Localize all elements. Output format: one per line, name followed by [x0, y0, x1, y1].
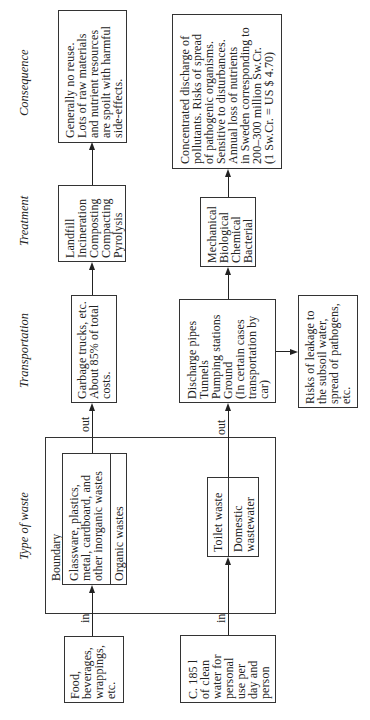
divider: [228, 478, 229, 556]
out-label: out: [78, 417, 93, 432]
solid-type-inorganic-text: Glassware, plastics, metal, cardboard, a…: [68, 471, 104, 581]
water-input-box: C. 185 l of clean water for personal use…: [180, 635, 276, 703]
out-label: out: [214, 420, 229, 435]
water-type-toilet-text: Toilet waste: [212, 493, 224, 552]
arrow-up-icon: [89, 403, 95, 411]
connector: [276, 351, 291, 352]
arrow-up-icon: [89, 262, 95, 270]
solid-input-text: Food, beverages, wrappings, etc.: [69, 645, 117, 699]
column-label-consequence: Consequence: [17, 49, 32, 116]
water-risk-box: Risks of leakage to the subsoil water, s…: [298, 295, 358, 408]
arrow-up-icon: [89, 585, 95, 593]
connector: [92, 270, 93, 295]
arrow-up-icon: [225, 267, 231, 275]
in-label: in: [78, 614, 93, 623]
water-transportation-box: Discharge pipes Tunnels Pumping stations…: [179, 299, 276, 403]
water-type-box: Toilet waste Domestic wastewater: [207, 477, 259, 557]
connector: [228, 565, 229, 635]
arrow-up-icon: [225, 557, 231, 565]
water-type-domestic-text: Domestic wastewater: [232, 497, 256, 552]
water-input-text: C. 185 l of clean water for personal use…: [187, 654, 271, 699]
arrow-up-icon: [225, 403, 231, 411]
water-consequence-text: Concentrated discharge of pollutants. Ri…: [179, 27, 275, 164]
arrow-up-icon: [225, 169, 231, 177]
solid-consequence-box: Generally no reuse. Lots of raw material…: [58, 10, 127, 143]
divider: [110, 454, 111, 584]
arrow-up-icon: [89, 142, 95, 150]
solid-transportation-box: Garbage trucks, etc. About 85% of total …: [71, 295, 117, 403]
in-label: in: [214, 614, 229, 623]
water-transportation-text: Discharge pipes Tunnels Pumping stations…: [186, 314, 270, 399]
column-label-type-of-waste: Type of waste: [17, 492, 32, 560]
solid-type-organic-text: Organic wastes: [113, 506, 125, 581]
connector: [92, 150, 93, 185]
water-risk-text: Risks of leakage to the subsoil water, s…: [304, 303, 352, 404]
water-treatment-text: Mechanical Biological Chemical Bacterial: [206, 206, 254, 263]
water-treatment-box: Mechanical Biological Chemical Bacterial: [200, 197, 256, 267]
solid-consequence-text: Generally no reuse. Lots of raw material…: [64, 26, 124, 138]
solid-treatment-text: Landfill Incineration Composting Compact…: [64, 198, 124, 258]
arrow-right-icon: [290, 349, 298, 355]
solid-treatment-box: Landfill Incineration Composting Compact…: [58, 185, 126, 262]
connector: [228, 275, 229, 299]
solid-input-box: Food, beverages, wrappings, etc.: [64, 636, 124, 703]
column-label-treatment: Treatment: [17, 196, 32, 246]
connector: [228, 177, 229, 197]
column-label-transportation: Transportation: [17, 313, 32, 388]
solid-type-box: Glassware, plastics, metal, cardboard, a…: [62, 453, 127, 585]
solid-transportation-text: Garbage trucks, etc. About 85% of total …: [76, 301, 112, 399]
water-consequence-box: Concentrated discharge of pollutants. Ri…: [172, 14, 282, 169]
